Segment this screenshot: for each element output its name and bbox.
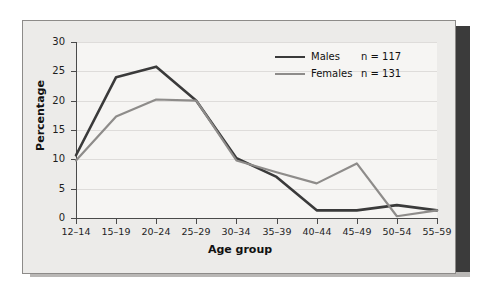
- legend-label-females: Females: [311, 68, 361, 79]
- series-line-males: [76, 67, 437, 211]
- series-line-females: [76, 99, 437, 216]
- figure-shadow-right: [456, 26, 470, 276]
- legend-swatch-females: [275, 73, 305, 75]
- chart-panel: 051015202530 12–1415–1920–2425–2930–3435…: [22, 20, 456, 274]
- legend-item-females: Femalesn = 131: [275, 65, 425, 82]
- legend-count-males: n = 117: [361, 51, 401, 62]
- y-axis-title: Percentage: [34, 61, 47, 171]
- chart-legend: Malesn = 117Femalesn = 131: [275, 48, 425, 82]
- legend-item-males: Malesn = 117: [275, 48, 425, 65]
- x-axis-title: Age group: [23, 243, 457, 256]
- legend-label-males: Males: [311, 51, 361, 62]
- figure-root: 051015202530 12–1415–1920–2425–2930–3435…: [0, 0, 484, 294]
- legend-count-females: n = 131: [361, 68, 401, 79]
- legend-swatch-males: [275, 56, 305, 58]
